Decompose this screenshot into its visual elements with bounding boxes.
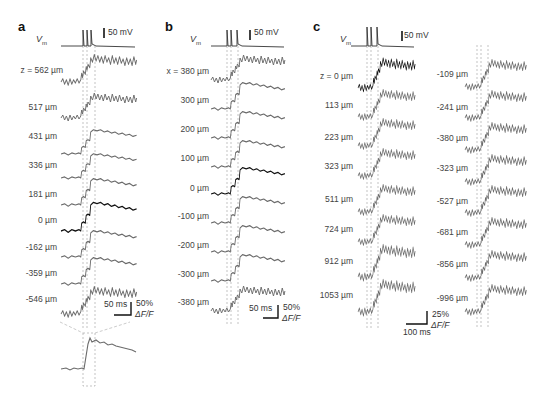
panel-a-scale-bar	[114, 302, 131, 315]
panel-a-traces	[61, 55, 137, 318]
panel-b-traces	[211, 55, 285, 314]
panel-a-guides	[83, 46, 95, 330]
panel-c-traces-left	[358, 58, 415, 316]
panel-c-vm-trace	[351, 27, 414, 47]
panel-c-right-guides	[477, 45, 488, 328]
panel-a-inset	[60, 322, 136, 386]
traces-plot	[0, 0, 543, 393]
panel-a-vm-trace	[61, 28, 135, 47]
panel-c-traces-right	[465, 60, 526, 316]
panel-c-scale-bar	[406, 311, 427, 324]
panel-b-scale-bar	[263, 305, 278, 318]
panel-b-vm-trace	[211, 30, 284, 47]
